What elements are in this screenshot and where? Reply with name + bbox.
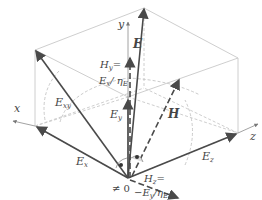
x-axis-line: [13, 121, 35, 126]
Hz-annotation-line2: −Ey/ηE: [134, 187, 168, 200]
vector-H-label: H: [167, 107, 180, 121]
vector-H: [132, 80, 179, 176]
Hy-annotation-line2: Ex/ ηE: [98, 75, 128, 88]
vector-Ex: [37, 127, 128, 178]
vector-Ex-label: Ex: [75, 155, 88, 169]
vector-Ey-label: Ey: [109, 108, 123, 122]
diagram-canvas: y x z E H Exy Ex Ey Ez Hy= Ex/ ηE Hz= −E…: [0, 0, 262, 200]
vector-Ez: [128, 134, 236, 178]
x-axis-label: x: [14, 102, 21, 115]
Hy-annotation-line1: Hy=: [99, 59, 121, 72]
vector-E-label: E: [132, 37, 143, 51]
vector-Ez-label: Ez: [201, 150, 214, 164]
em-field-vector-diagram: y x z E H Exy Ex Ey Ez Hy= Ex/ ηE Hz= −E…: [0, 0, 262, 200]
y-axis-label: y: [117, 18, 125, 31]
neq-zero-label: ≠ 0: [112, 183, 130, 194]
z-axis-label: z: [249, 130, 256, 143]
Hz-annotation-line1: Hz=: [143, 173, 165, 186]
